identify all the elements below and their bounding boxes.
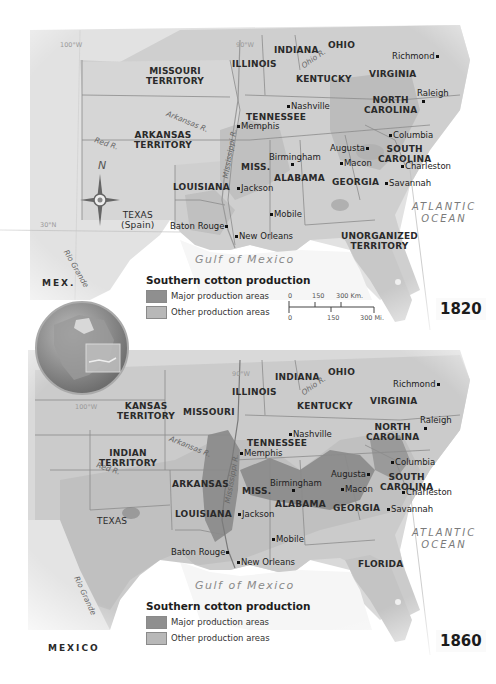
city-nashville: Nashville — [288, 430, 332, 439]
city-memphis: Memphis — [239, 449, 282, 458]
state-louisiana: LOUISIANA — [175, 510, 232, 519]
state-missouri: MISSOURI — [183, 408, 235, 417]
city-columbia: Columbia — [390, 458, 435, 467]
state-unorganized-territory: UNORGANIZED TERRITORY — [341, 231, 418, 251]
state-georgia: GEORGIA — [332, 178, 379, 187]
state-florida: FLORIDA — [358, 560, 403, 569]
state-missouri-territory: MISSOURI TERRITORY — [146, 66, 204, 86]
compass-rose: N — [78, 160, 122, 226]
legend-1820: Southern cotton production Major product… — [146, 274, 310, 321]
map-1820: 100°W 90°W 30°N INDIANA OHIO MISSOURI TE… — [0, 0, 496, 340]
latitude-30n: 30°N — [40, 222, 56, 229]
city-augusta: Augusta — [330, 144, 370, 153]
city-savannah: Savannah — [384, 179, 431, 188]
state-ohio: OHIO — [328, 368, 355, 377]
city-jackson: Jackson — [236, 184, 273, 193]
legend-1860: Southern cotton production Major product… — [146, 600, 310, 647]
atlantic-ocean-label: ATLANTIC OCEAN — [412, 527, 476, 551]
state-alabama: ALABAMA — [275, 500, 326, 509]
state-louisiana: LOUISIANA — [173, 183, 230, 192]
swatch-other — [146, 306, 167, 319]
city-new-orleans: New Orleans — [234, 232, 293, 241]
city-mobile: Mobile — [271, 535, 304, 544]
city-macon: Macon — [339, 159, 372, 168]
city-richmond: Richmond — [392, 52, 440, 61]
state-miss: MISS. — [242, 487, 271, 496]
state-texas: TEXAS (Spain) — [121, 210, 155, 230]
city-nashville: Nashville — [286, 102, 330, 111]
state-kentucky: KENTUCKY — [296, 75, 352, 84]
city-columbia: Columbia — [388, 131, 433, 140]
city-jackson: Jackson — [237, 510, 274, 519]
year-label-1820: 1820 — [436, 298, 486, 320]
city-raleigh: Raleigh — [420, 416, 452, 425]
city-macon: Macon — [340, 485, 373, 494]
legend-title: Southern cotton production — [146, 274, 310, 286]
state-arkansas: ARKANSAS — [172, 480, 229, 489]
state-illinois: ILLINOIS — [232, 60, 277, 69]
swatch-major — [146, 290, 167, 303]
longitude-100w: 100°W — [60, 42, 82, 49]
state-ohio: OHIO — [328, 41, 355, 50]
longitude-100w: 100°W — [75, 404, 97, 411]
city-mobile: Mobile — [269, 210, 302, 219]
state-arkansas-territory: ARKANSAS TERRITORY — [134, 130, 192, 150]
state-alabama: ALABAMA — [274, 174, 325, 183]
city-charleston: Charleston — [400, 162, 451, 171]
city-dot — [422, 100, 425, 103]
state-georgia: GEORGIA — [333, 504, 380, 513]
legend-item-major: Major production areas — [146, 289, 310, 303]
country-mexico: MEXICO — [48, 644, 100, 653]
state-tennessee: TENNESSEE — [247, 439, 307, 448]
city-memphis: Memphis — [236, 122, 279, 131]
city-dot — [291, 163, 294, 166]
state-texas: TEXAS — [97, 517, 127, 526]
state-virginia: VIRGINIA — [369, 70, 416, 79]
gulf-of-mexico-label: Gulf of Mexico — [195, 254, 295, 265]
city-dot — [424, 427, 427, 430]
city-dot — [292, 489, 295, 492]
year-label-1860: 1860 — [436, 630, 486, 652]
city-birmingham: Birmingham — [269, 153, 321, 162]
city-birmingham: Birmingham — [270, 479, 322, 488]
city-richmond: Richmond — [393, 380, 441, 389]
city-charleston: Charleston — [401, 488, 452, 497]
legend-title: Southern cotton production — [146, 600, 310, 612]
city-baton-rouge: Baton Rouge — [171, 548, 230, 557]
legend-item-other: Other production areas — [146, 631, 310, 645]
state-kansas-territory: KANSAS TERRITORY — [117, 401, 175, 421]
longitude-90w: 90°W — [236, 42, 254, 49]
state-north-carolina: NORTH CAROLINA — [366, 422, 419, 442]
state-illinois: ILLINOIS — [232, 388, 277, 397]
city-savannah: Savannah — [386, 505, 433, 514]
city-raleigh: Raleigh — [417, 89, 449, 98]
scale-bar: 0 150 300 Km. 0 150 300 Mi. — [288, 293, 382, 323]
country-mexico: MEX. — [42, 279, 75, 288]
longitude-90w: 90°W — [232, 371, 250, 378]
city-baton-rouge: Baton Rouge — [170, 222, 229, 231]
swatch-other — [146, 632, 167, 645]
legend-item-major: Major production areas — [146, 615, 310, 629]
city-new-orleans: New Orleans — [236, 558, 295, 567]
compass-icon — [78, 160, 122, 226]
gulf-of-mexico-label: Gulf of Mexico — [195, 580, 295, 591]
globe-locator-icon — [34, 300, 130, 396]
state-kentucky: KENTUCKY — [297, 402, 353, 411]
atlantic-ocean-label: ATLANTIC OCEAN — [412, 201, 476, 225]
state-north-carolina: NORTH CAROLINA — [364, 95, 417, 115]
legend-item-other: Other production areas — [146, 305, 310, 319]
city-augusta: Augusta — [331, 470, 371, 479]
state-virginia: VIRGINIA — [370, 397, 417, 406]
swatch-major — [146, 616, 167, 629]
state-miss: MISS. — [241, 163, 270, 172]
